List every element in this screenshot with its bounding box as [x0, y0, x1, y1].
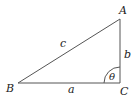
- side-label-c: c: [60, 37, 66, 50]
- side-label-a: a: [68, 83, 75, 96]
- side-label-b: b: [124, 48, 131, 61]
- angle-label-theta: θ: [109, 71, 115, 82]
- triangle-diagram: A B C a b c θ: [0, 0, 136, 101]
- vertex-label-c: C: [120, 85, 129, 98]
- triangle: [18, 19, 120, 83]
- vertex-label-a: A: [118, 4, 127, 17]
- vertex-label-b: B: [5, 82, 14, 95]
